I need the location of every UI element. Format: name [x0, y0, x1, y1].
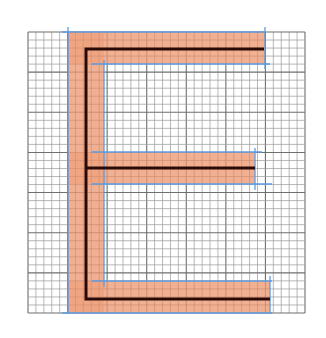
- letter-e-grid-diagram: [0, 0, 326, 338]
